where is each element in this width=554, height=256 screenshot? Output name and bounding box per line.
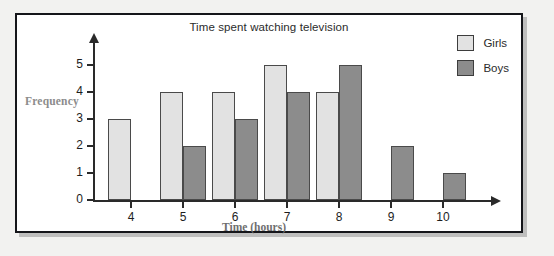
x-tick-label: 9 (376, 210, 406, 224)
legend-label: Girls (483, 37, 507, 49)
x-tick-label: 4 (116, 210, 146, 224)
bar-girls-7 (264, 65, 287, 200)
bar-girls-5 (160, 92, 183, 200)
y-axis-arrow-icon (89, 33, 99, 43)
y-tick-label: 0 (57, 192, 83, 206)
bar-girls-4 (108, 119, 131, 200)
x-tick-mark (182, 201, 184, 208)
legend-swatch-icon (457, 35, 474, 51)
chart-title: Time spent watching television (17, 21, 521, 33)
x-tick-mark (442, 201, 444, 208)
x-tick-label: 8 (324, 210, 354, 224)
y-tick-mark (87, 118, 94, 120)
legend-item-girls: Girls (457, 35, 509, 51)
bar-boys-5 (183, 146, 206, 200)
x-tick-label: 6 (220, 210, 250, 224)
x-tick-mark (390, 201, 392, 208)
bar-girls-8 (316, 92, 339, 200)
y-tick-label: 4 (57, 84, 83, 98)
x-tick-mark (234, 201, 236, 208)
x-tick-label: 10 (428, 210, 458, 224)
bar-boys-7 (287, 92, 310, 200)
bar-girls-6 (212, 92, 235, 200)
x-axis-line (93, 200, 493, 202)
y-tick-mark (87, 91, 94, 93)
x-tick-label: 7 (272, 210, 302, 224)
x-tick-mark (130, 201, 132, 208)
chart-figure-frame: Time spent watching television GirlsBoys… (15, 13, 523, 233)
y-tick-label: 5 (57, 57, 83, 71)
legend-swatch-icon (457, 60, 474, 76)
y-tick-mark (87, 64, 94, 66)
bar-boys-6 (235, 119, 258, 200)
bar-boys-9 (391, 146, 414, 200)
chart-plot-area: Time spent watching television GirlsBoys… (17, 15, 521, 231)
legend-label: Boys (483, 62, 509, 74)
y-tick-label: 2 (57, 138, 83, 152)
bar-boys-8 (339, 65, 362, 200)
screenshot-root: Time spent watching television GirlsBoys… (0, 0, 554, 256)
y-tick-label: 1 (57, 165, 83, 179)
y-tick-mark (87, 145, 94, 147)
bar-boys-10 (443, 173, 466, 200)
legend-item-boys: Boys (457, 60, 509, 76)
y-tick-mark (87, 172, 94, 174)
y-tick-label: 3 (57, 111, 83, 125)
x-axis-arrow-icon (491, 196, 501, 206)
x-tick-mark (286, 201, 288, 208)
x-tick-mark (338, 201, 340, 208)
x-tick-label: 5 (168, 210, 198, 224)
chart-legend: GirlsBoys (457, 35, 509, 76)
y-tick-mark (87, 199, 94, 201)
